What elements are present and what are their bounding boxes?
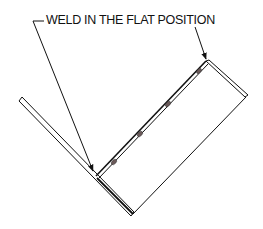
weld-position-label: WELD IN THE FLAT POSITION	[44, 13, 217, 27]
right-plate	[96, 60, 248, 214]
leader-lines	[33, 21, 206, 171]
tack-weld	[164, 100, 171, 107]
left-leader-arrow	[33, 21, 93, 171]
tack-weld	[196, 68, 203, 75]
weld-diagram	[0, 0, 263, 229]
tack-weld	[136, 130, 143, 137]
